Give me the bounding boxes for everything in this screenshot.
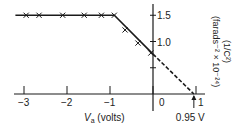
y-axis-label-line2: (farads⁻² × 10⁻²⁴) <box>211 16 221 87</box>
x-tick-label: −1 <box>104 97 116 108</box>
data-point-x-marker <box>122 27 127 32</box>
y-axis-label-line1: (1/C²) <box>222 40 232 63</box>
x-tick-label: −3 <box>18 97 30 108</box>
plot-area: −3−2−1011.01.50.95 V <box>14 4 205 123</box>
capacitance-voltage-chart: −3−2−1011.01.50.95 V Va (volts) (1/C²) (… <box>0 0 241 127</box>
x-axis-label: Va (volts) <box>84 112 125 124</box>
fit-line <box>15 15 153 54</box>
extrapolated-fit-line <box>153 54 194 94</box>
annotation-intercept-label: 0.95 V <box>176 112 205 123</box>
x-tick-label: 0 <box>159 97 165 108</box>
x-tick-label: −2 <box>61 97 73 108</box>
y-tick-label: 1.5 <box>157 10 171 21</box>
arrowhead-icon <box>191 95 196 100</box>
x-tick-label: 1 <box>198 97 204 108</box>
y-tick-label: 1.0 <box>157 37 171 48</box>
data-point-x-marker <box>135 40 140 45</box>
